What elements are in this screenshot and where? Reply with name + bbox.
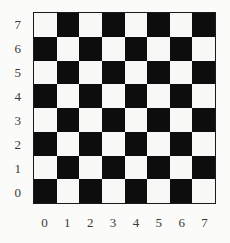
board-cell-5-4[interactable] [147, 84, 170, 108]
board-cell-7-4[interactable] [192, 84, 215, 108]
board-cell-6-5[interactable] [170, 61, 193, 85]
board-cell-5-5[interactable] [147, 61, 170, 85]
board-cell-5-6[interactable] [147, 37, 170, 61]
x-tick-label: 7 [193, 209, 216, 235]
board-cell-4-0[interactable] [125, 179, 148, 203]
x-tick-label: 1 [56, 209, 79, 235]
board-cell-6-3[interactable] [170, 108, 193, 132]
y-tick-label: 1 [0, 156, 30, 180]
x-tick-label: 6 [170, 209, 193, 235]
board-cell-2-7[interactable] [79, 13, 102, 37]
checkerboard-grid[interactable] [33, 12, 216, 204]
board-cell-1-4[interactable] [57, 84, 80, 108]
board-cell-2-1[interactable] [79, 156, 102, 180]
board-cell-0-7[interactable] [34, 13, 57, 37]
board-cell-6-2[interactable] [170, 132, 193, 156]
y-tick-label: 3 [0, 108, 30, 132]
board-cell-3-1[interactable] [102, 156, 125, 180]
board-cell-1-5[interactable] [57, 61, 80, 85]
board-cell-1-7[interactable] [57, 13, 80, 37]
board-cell-1-0[interactable] [57, 179, 80, 203]
board-cell-3-6[interactable] [102, 37, 125, 61]
board-cell-2-4[interactable] [79, 84, 102, 108]
board-cell-5-0[interactable] [147, 179, 170, 203]
checkerboard-figure: 76543210 01234567 [0, 0, 230, 243]
board-cell-2-3[interactable] [79, 108, 102, 132]
y-tick-label: 0 [0, 180, 30, 204]
board-cell-6-1[interactable] [170, 156, 193, 180]
board-cell-0-6[interactable] [34, 37, 57, 61]
board-cell-0-5[interactable] [34, 61, 57, 85]
board-cell-3-2[interactable] [102, 132, 125, 156]
board-cell-2-6[interactable] [79, 37, 102, 61]
board-cell-2-5[interactable] [79, 61, 102, 85]
board-cell-4-5[interactable] [125, 61, 148, 85]
board-cell-0-3[interactable] [34, 108, 57, 132]
board-cell-2-2[interactable] [79, 132, 102, 156]
board-cell-3-4[interactable] [102, 84, 125, 108]
x-tick-label: 2 [79, 209, 102, 235]
board-cell-5-7[interactable] [147, 13, 170, 37]
board-cell-7-7[interactable] [192, 13, 215, 37]
board-cell-1-3[interactable] [57, 108, 80, 132]
board-cell-7-1[interactable] [192, 156, 215, 180]
y-tick-label: 4 [0, 84, 30, 108]
board-cell-4-6[interactable] [125, 37, 148, 61]
board-cell-0-2[interactable] [34, 132, 57, 156]
board-cell-4-1[interactable] [125, 156, 148, 180]
board-cell-6-7[interactable] [170, 13, 193, 37]
board-cell-1-2[interactable] [57, 132, 80, 156]
board-cell-7-0[interactable] [192, 179, 215, 203]
x-tick-label: 4 [125, 209, 148, 235]
y-tick-label: 7 [0, 12, 30, 36]
board-cell-4-3[interactable] [125, 108, 148, 132]
board-cell-0-0[interactable] [34, 179, 57, 203]
board-cell-5-2[interactable] [147, 132, 170, 156]
x-tick-label: 0 [33, 209, 56, 235]
board-cell-4-2[interactable] [125, 132, 148, 156]
board-cell-7-2[interactable] [192, 132, 215, 156]
board-cell-5-3[interactable] [147, 108, 170, 132]
board-cell-3-0[interactable] [102, 179, 125, 203]
board-cell-3-5[interactable] [102, 61, 125, 85]
board-cell-7-6[interactable] [192, 37, 215, 61]
board-cell-3-3[interactable] [102, 108, 125, 132]
x-axis-tick-labels: 01234567 [33, 209, 216, 235]
board-cell-4-4[interactable] [125, 84, 148, 108]
board-cell-4-7[interactable] [125, 13, 148, 37]
board-cell-1-1[interactable] [57, 156, 80, 180]
board-cell-5-1[interactable] [147, 156, 170, 180]
board-cell-6-4[interactable] [170, 84, 193, 108]
board-cell-0-1[interactable] [34, 156, 57, 180]
board-cell-7-3[interactable] [192, 108, 215, 132]
board-cell-7-5[interactable] [192, 61, 215, 85]
board-cell-0-4[interactable] [34, 84, 57, 108]
x-tick-label: 5 [147, 209, 170, 235]
board-cell-1-6[interactable] [57, 37, 80, 61]
board-cell-6-0[interactable] [170, 179, 193, 203]
board-cell-6-6[interactable] [170, 37, 193, 61]
board-cell-2-0[interactable] [79, 179, 102, 203]
x-tick-label: 3 [102, 209, 125, 235]
y-tick-label: 6 [0, 36, 30, 60]
y-axis-tick-labels: 76543210 [0, 12, 30, 204]
board-cell-3-7[interactable] [102, 13, 125, 37]
y-tick-label: 2 [0, 132, 30, 156]
y-tick-label: 5 [0, 60, 30, 84]
